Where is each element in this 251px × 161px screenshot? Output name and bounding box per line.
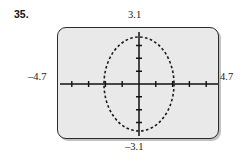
x-min-label: –4.7 [28,71,46,83]
calculator-figure: 35. [0,0,251,161]
graph-plot-area [58,28,219,139]
problem-number-label: 35. [14,8,29,20]
y-max-label: 3.1 [128,9,141,21]
y-min-label: –3.1 [125,141,143,153]
calculator-screen [57,27,219,139]
x-max-label: 4.7 [220,71,233,83]
